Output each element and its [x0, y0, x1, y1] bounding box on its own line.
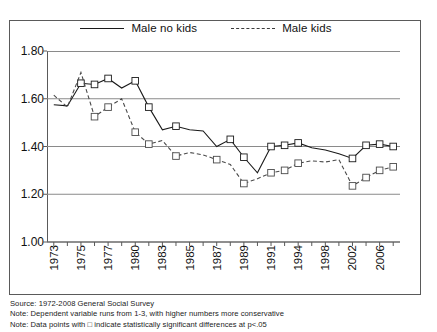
significant-data-point-marker: [376, 167, 383, 174]
legend-line-solid-icon: [80, 28, 124, 29]
significant-data-point-marker: [227, 136, 234, 143]
y-axis-tick-label: 1.40: [21, 140, 44, 154]
legend-line-dashed-icon: [231, 28, 275, 29]
x-axis-tick-label: 1975: [75, 245, 87, 271]
significant-data-point-marker: [349, 155, 356, 162]
x-axis-tick-label: 1985: [184, 245, 196, 271]
significant-data-point-marker: [132, 129, 139, 136]
significant-data-point-marker: [281, 142, 288, 149]
x-axis-tick-label: 2002: [346, 245, 358, 271]
significant-data-point-marker: [105, 75, 112, 82]
y-axis-tick-label: 1.20: [21, 187, 44, 201]
x-axis-tick-label: 1980: [129, 245, 141, 271]
y-axis-tick-label: 1.00: [21, 235, 44, 249]
significant-data-point-marker: [146, 141, 153, 148]
significant-data-point-marker: [91, 81, 98, 88]
x-axis-tick-label: 1973: [48, 245, 60, 271]
significant-data-point-marker: [105, 104, 112, 111]
significant-data-point-marker: [363, 142, 370, 149]
x-axis-tick-label: 1983: [156, 245, 168, 271]
figure-footnotes: Source: 1972-2008 General Social Survey …: [10, 299, 430, 330]
significant-data-point-marker: [91, 113, 98, 120]
significant-data-point-marker: [173, 153, 180, 160]
legend-label-male-no-kids: Male no kids: [131, 22, 197, 34]
significant-data-point-marker: [241, 180, 248, 187]
significant-data-point-marker: [146, 104, 153, 111]
x-axis-tick-label: 1987: [211, 245, 223, 271]
y-axis-labels: 1.001.201.401.601.80: [8, 51, 44, 242]
significant-data-point-marker: [132, 78, 139, 85]
significant-data-point-marker: [295, 160, 302, 167]
series-line-male-no-kids: [54, 78, 393, 172]
footnote-source: Source: 1972-2008 General Social Survey: [10, 299, 430, 309]
significant-data-point-marker: [390, 143, 397, 150]
significant-data-point-marker: [268, 143, 275, 150]
chart-figure: Male no kids Male kids 1.001.201.401.601…: [0, 0, 437, 332]
significant-data-point-marker: [281, 167, 288, 174]
x-axis-labels: 1973197519771980198319851987198919911994…: [47, 245, 400, 293]
series-line-male-kids: [54, 72, 393, 185]
significant-data-point-marker: [363, 174, 370, 181]
legend-item-male-kids: Male kids: [231, 22, 331, 34]
significant-data-point-marker: [78, 80, 85, 87]
significant-data-point-marker: [241, 154, 248, 161]
x-axis-tick-label: 1991: [265, 245, 277, 271]
x-axis-tick-label: 1977: [102, 245, 114, 271]
chart-legend: Male no kids Male kids: [0, 22, 412, 34]
chart-plot-svg: [47, 51, 400, 242]
significant-data-point-marker: [295, 140, 302, 147]
significant-data-point-marker: [376, 141, 383, 148]
y-axis-tick-label: 1.80: [21, 44, 44, 58]
x-axis-tick-label: 1989: [238, 245, 250, 271]
plot-area-wrapper: [47, 51, 400, 242]
x-axis-tick-label: 1994: [292, 245, 304, 271]
legend-label-male-kids: Male kids: [282, 22, 331, 34]
x-axis-tick-label: 1998: [319, 245, 331, 271]
x-axis-tick-label: 2006: [374, 245, 386, 271]
significant-data-point-marker: [173, 123, 180, 130]
significant-data-point-marker: [268, 169, 275, 176]
footnote-note-dependent-variable: Note: Dependent variable runs from 1-3, …: [10, 309, 430, 319]
significant-data-point-marker: [390, 163, 397, 170]
significant-data-point-marker: [349, 183, 356, 190]
y-axis-tick-label: 1.60: [21, 92, 44, 106]
significant-data-point-marker: [213, 156, 220, 163]
footnote-note-significance: Note: Data points with □ indicate statis…: [10, 320, 430, 330]
legend-item-male-no-kids: Male no kids: [80, 22, 197, 34]
